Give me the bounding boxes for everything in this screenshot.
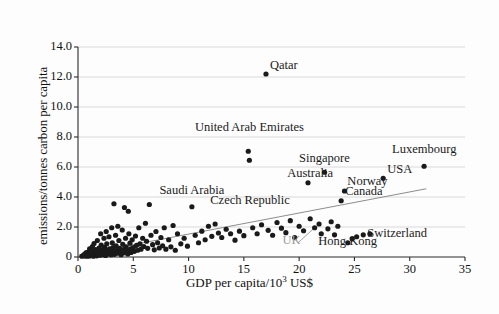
annotation-label: United Arab Emirates xyxy=(195,120,304,135)
y-axis-title: emissions/tonnes carbon per capita xyxy=(35,41,51,271)
annotation-label: Czech Republic xyxy=(210,193,290,208)
callout-lines xyxy=(298,228,315,243)
annotation-label: Qatar xyxy=(270,58,298,73)
annotation-label: Luxembourg xyxy=(392,142,456,157)
annotation-label: Hong Kong xyxy=(318,234,377,249)
annotation-label: Australia xyxy=(287,166,333,181)
annotation-label: Singapore xyxy=(299,151,350,166)
annotation-label: UK xyxy=(282,233,300,248)
x-axis-title: GDP per capita/103 US$ xyxy=(0,274,499,291)
annotation-label: Canada xyxy=(345,184,382,199)
chart-figure: 02.04.06.08.010.012.014.0 05101520253035… xyxy=(0,0,499,314)
annotation-label: USA xyxy=(387,162,412,177)
